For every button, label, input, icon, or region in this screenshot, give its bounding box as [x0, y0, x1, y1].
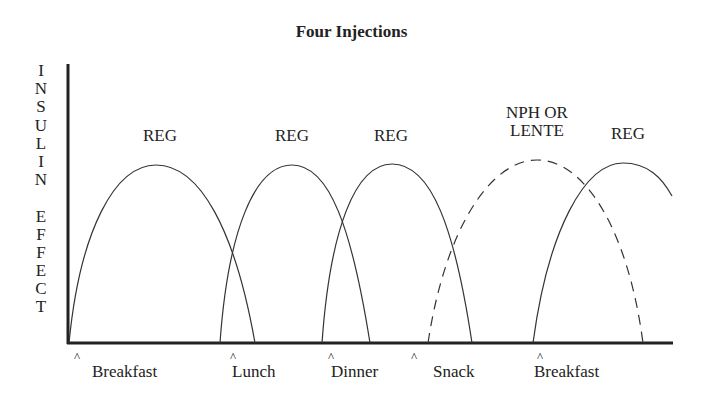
x-label-breakfast: Breakfast: [92, 362, 157, 382]
x-label-dinner: Dinner: [331, 362, 378, 382]
caret-marker-icon: ^: [411, 349, 417, 365]
reg-curve-next-breakfast: [533, 163, 672, 343]
curve-label-reg: REG: [611, 125, 645, 143]
x-label-lunch: Lunch: [232, 362, 275, 382]
curve-label-nph: NPH OR: [506, 104, 568, 122]
reg-curve-dinner: [322, 164, 472, 343]
nph-lente-curve: [428, 160, 643, 343]
curve-label-reg: REG: [374, 127, 408, 145]
reg-curve-breakfast: [69, 165, 255, 343]
insulin-curves-plot: [0, 0, 703, 402]
curve-label-reg: REG: [143, 127, 177, 145]
x-label-snack: Snack: [433, 362, 475, 382]
curve-label-lente: LENTE: [510, 122, 564, 140]
reg-curve-lunch: [220, 165, 370, 343]
caret-marker-icon: ^: [74, 349, 80, 365]
x-label-breakfast-next: Breakfast: [534, 362, 599, 382]
curve-label-reg: REG: [275, 127, 309, 145]
